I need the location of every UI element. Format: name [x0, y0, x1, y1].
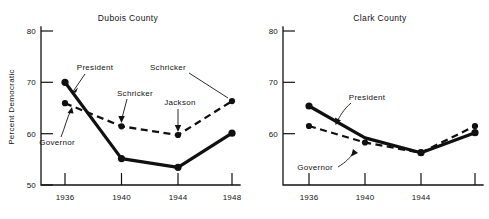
y-tick-label-80-left: 80: [27, 27, 37, 36]
annotation-president-dubois: President: [77, 63, 114, 72]
annotation-president-clark: President: [349, 93, 386, 102]
leader-governor-clark: [338, 153, 353, 167]
axis-spines-right: [283, 27, 483, 185]
leader-arrow-governor-clark: [351, 149, 358, 157]
y-ticks-right: [283, 31, 295, 134]
leader-president-clark: [337, 103, 351, 122]
panel-title-dubois: Dubois County: [98, 13, 159, 23]
y-tick-label-70-left: 70: [27, 78, 37, 87]
x-tick-label-1948-left: 1948: [223, 193, 242, 202]
series-line-governor-clark: [309, 126, 475, 153]
y-tick-label-70-right: 70: [269, 78, 279, 87]
x-tick-label-1936-left: 1936: [56, 193, 75, 202]
y-tick-label-80-right: 80: [269, 27, 279, 36]
series-markers-governor-clark: [306, 123, 478, 156]
annotation-governor-dubois: Governor: [39, 138, 75, 147]
x-tick-label-1940-right: 1940: [356, 193, 375, 202]
leader-governor-dubois: [61, 110, 71, 137]
x-ticks-right: [309, 173, 475, 185]
series-markers-governor-dubois: [62, 98, 235, 138]
y-ticks-left: [41, 31, 53, 185]
y-tick-label-60-left: 60: [27, 130, 37, 139]
x-ticks-left: [65, 173, 232, 185]
y-tick-label-60-right: 60: [269, 130, 279, 139]
leader-president-dubois: [72, 74, 85, 93]
annotation-schricker-upper-dubois: Schricker: [150, 63, 186, 72]
y-tick-label-50-left: 50: [27, 181, 37, 190]
chart-panel-clark-county: Clark County 80 70 60 1936 1940 1944: [245, 0, 489, 219]
annotation-schricker-center-dubois: Schricker: [117, 89, 153, 98]
chart-panel-dubois-county: Dubois County Percent Democratic 80 70 6…: [0, 0, 245, 219]
x-tick-label-1944-left: 1944: [169, 193, 188, 202]
leader-arrow-governor-dubois: [68, 107, 74, 114]
annotation-jackson-dubois: Jackson: [164, 98, 195, 107]
x-tick-label-1940-left: 1940: [112, 193, 131, 202]
figure-canvas: Dubois County Percent Democratic 80 70 6…: [0, 0, 489, 219]
annotation-governor-clark: Governor: [297, 163, 333, 172]
leader-arrow-schricker-center-dubois: [118, 116, 125, 123]
x-tick-label-1936-right: 1936: [300, 193, 319, 202]
leader-arrow-jackson-dubois: [175, 125, 181, 132]
leader-schricker-upper-dubois: [189, 73, 228, 98]
panel-title-clark: Clark County: [353, 13, 407, 23]
x-tick-label-1944-right: 1944: [412, 193, 431, 202]
y-axis-title-left: Percent Democratic: [7, 69, 16, 145]
series-line-president-clark: [309, 106, 475, 153]
